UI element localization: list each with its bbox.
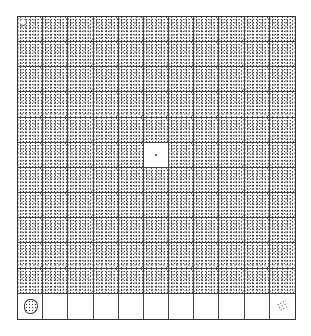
board-cell[interactable]: [18, 17, 43, 42]
board-cell[interactable]: [245, 67, 270, 92]
board-cell[interactable]: [194, 294, 219, 319]
board-cell[interactable]: [245, 218, 270, 243]
board-cell[interactable]: [144, 92, 169, 117]
board-cell[interactable]: [94, 193, 119, 218]
board-cell[interactable]: [68, 17, 93, 42]
board-cell[interactable]: [43, 294, 68, 319]
board-cell[interactable]: [119, 218, 144, 243]
board-cell[interactable]: [119, 243, 144, 268]
board-cell[interactable]: [219, 218, 244, 243]
board-cell[interactable]: [119, 42, 144, 67]
board-cell[interactable]: [43, 118, 68, 143]
board-cell[interactable]: [144, 193, 169, 218]
board-cell[interactable]: [169, 92, 194, 117]
board-cell[interactable]: [43, 92, 68, 117]
board-cell[interactable]: [119, 168, 144, 193]
board-cell[interactable]: [43, 143, 68, 168]
board-cell[interactable]: [94, 67, 119, 92]
board-cell[interactable]: [18, 243, 43, 268]
board-cell[interactable]: [270, 243, 295, 268]
board-cell[interactable]: [245, 294, 270, 319]
board-cell[interactable]: [270, 92, 295, 117]
board-cell[interactable]: [245, 92, 270, 117]
board-cell[interactable]: [194, 42, 219, 67]
board-cell[interactable]: [18, 168, 43, 193]
board-cell[interactable]: [219, 92, 244, 117]
board-cell[interactable]: [270, 118, 295, 143]
board-cell[interactable]: [119, 143, 144, 168]
board-cell[interactable]: [94, 143, 119, 168]
board-cell[interactable]: [94, 218, 119, 243]
board-cell[interactable]: [94, 168, 119, 193]
board-cell[interactable]: [68, 269, 93, 294]
board-cell[interactable]: [245, 42, 270, 67]
board-cell[interactable]: [68, 92, 93, 117]
board-cell[interactable]: [144, 269, 169, 294]
board-cell[interactable]: [94, 243, 119, 268]
board-cell[interactable]: [94, 118, 119, 143]
board-cell[interactable]: [270, 269, 295, 294]
board-cell[interactable]: [43, 269, 68, 294]
board-cell[interactable]: [18, 269, 43, 294]
board-cell[interactable]: [194, 67, 219, 92]
board-cell[interactable]: [270, 168, 295, 193]
board-cell[interactable]: [169, 67, 194, 92]
board-cell[interactable]: [245, 193, 270, 218]
board-cell[interactable]: [270, 67, 295, 92]
board-cell[interactable]: [194, 243, 219, 268]
board-cell[interactable]: [219, 118, 244, 143]
board-cell[interactable]: [169, 193, 194, 218]
board-cell[interactable]: [144, 243, 169, 268]
board-cell[interactable]: [194, 92, 219, 117]
board-cell[interactable]: [43, 243, 68, 268]
board-cell[interactable]: [219, 42, 244, 67]
board-cell[interactable]: [144, 294, 169, 319]
board-cell[interactable]: [270, 193, 295, 218]
board-cell[interactable]: [119, 118, 144, 143]
board-cell[interactable]: [219, 67, 244, 92]
board-cell[interactable]: [270, 17, 295, 42]
board-cell[interactable]: [43, 168, 68, 193]
board-cell[interactable]: [18, 92, 43, 117]
board-cell[interactable]: [245, 168, 270, 193]
board-cell[interactable]: [94, 294, 119, 319]
board-cell[interactable]: [68, 193, 93, 218]
board-cell[interactable]: [169, 294, 194, 319]
board-cell[interactable]: [169, 17, 194, 42]
board-cell[interactable]: [194, 118, 219, 143]
board-cell[interactable]: [169, 218, 194, 243]
board-cell[interactable]: [18, 42, 43, 67]
board-cell[interactable]: [219, 17, 244, 42]
board-cell[interactable]: [119, 269, 144, 294]
board-cell[interactable]: [245, 17, 270, 42]
board-cell[interactable]: [169, 42, 194, 67]
board-cell[interactable]: [68, 243, 93, 268]
board-cell[interactable]: [169, 243, 194, 268]
board-cell[interactable]: [219, 269, 244, 294]
board-cell[interactable]: [119, 294, 144, 319]
board-cell[interactable]: [144, 118, 169, 143]
board-cell[interactable]: [245, 118, 270, 143]
board-cell[interactable]: [68, 67, 93, 92]
board-cell[interactable]: [94, 42, 119, 67]
board-cell[interactable]: [169, 168, 194, 193]
board-cell[interactable]: [68, 168, 93, 193]
board-cell[interactable]: [245, 243, 270, 268]
board-cell[interactable]: [43, 42, 68, 67]
board-cell[interactable]: [43, 193, 68, 218]
board-cell[interactable]: [94, 269, 119, 294]
board-cell[interactable]: [219, 168, 244, 193]
board-cell[interactable]: [219, 294, 244, 319]
board-cell[interactable]: [68, 218, 93, 243]
board-cell[interactable]: [219, 143, 244, 168]
board-cell[interactable]: [43, 17, 68, 42]
board-cell[interactable]: [119, 17, 144, 42]
board-cell[interactable]: [194, 269, 219, 294]
board-cell[interactable]: [245, 269, 270, 294]
board-cell[interactable]: [68, 42, 93, 67]
board-cell[interactable]: [194, 168, 219, 193]
board-cell[interactable]: [194, 17, 219, 42]
board-cell[interactable]: [194, 143, 219, 168]
board-cell[interactable]: [144, 218, 169, 243]
board-cell[interactable]: [119, 92, 144, 117]
